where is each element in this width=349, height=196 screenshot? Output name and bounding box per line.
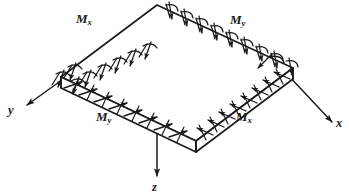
axis-x-line [286, 73, 332, 122]
label-moment-my-far: My [230, 13, 245, 28]
plate-bending-moment-diagram: Mx My My Mx y x z [0, 0, 349, 196]
label-moment-mx-near: Mx [236, 110, 252, 125]
label-axis-y: y [8, 104, 14, 117]
label-moment-mx-far: Mx [76, 12, 92, 27]
axis-y-line [27, 80, 62, 105]
label-moment-my-near: My [96, 110, 111, 125]
label-axis-z: z [152, 181, 157, 194]
label-axis-x: x [336, 117, 342, 130]
plate-element [61, 5, 293, 152]
diagram-canvas [0, 0, 349, 196]
